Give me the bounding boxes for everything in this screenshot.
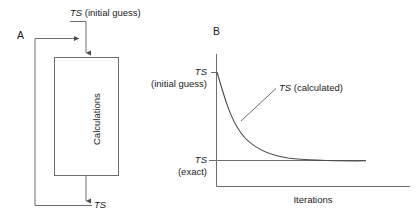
output-label: TS bbox=[94, 199, 106, 211]
calculated-curve-symbol: TS bbox=[279, 82, 291, 93]
input-label: TS (initial guess) bbox=[70, 7, 141, 19]
y-axis-initial-guess-qualifier: (initial guess) bbox=[151, 78, 207, 89]
figure-container: A TS (initial guess) Calculations TS B T… bbox=[0, 0, 418, 224]
panel-a-letter: A bbox=[17, 30, 24, 42]
y-axis-exact-symbol: TS bbox=[195, 154, 207, 165]
panel-a-flowchart bbox=[35, 22, 119, 206]
curve-label-leader bbox=[241, 89, 276, 122]
input-label-symbol: TS bbox=[70, 7, 82, 18]
calculations-box-label: Calculations bbox=[91, 93, 102, 145]
calculated-curve-label: TS (calculated) bbox=[279, 82, 343, 94]
panel-b-letter: B bbox=[213, 26, 220, 38]
panel-b-chart bbox=[209, 54, 410, 187]
x-axis-label: Iterations bbox=[258, 194, 368, 206]
y-axis-exact-label: TS (exact) bbox=[120, 154, 207, 177]
figure-vector-layer bbox=[0, 0, 418, 224]
y-axis-exact-qualifier: (exact) bbox=[178, 166, 207, 177]
output-label-symbol: TS bbox=[94, 199, 106, 210]
calculated-curve-qualifier: (calculated) bbox=[291, 82, 343, 93]
y-axis-initial-guess-symbol: TS bbox=[195, 66, 207, 77]
input-label-qualifier: (initial guess) bbox=[82, 7, 141, 18]
y-axis-initial-guess-label: TS (initial guess) bbox=[101, 66, 207, 89]
